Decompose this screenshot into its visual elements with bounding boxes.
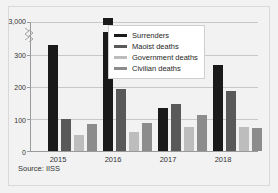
legend-swatch-surrenders xyxy=(114,34,127,37)
source-note: Source: IISS xyxy=(18,164,60,173)
bar-2015-civilian-deaths[interactable] xyxy=(87,124,97,151)
bar-2018-government-deaths[interactable] xyxy=(239,127,249,151)
ytick-label-300: 300 xyxy=(14,52,26,59)
bar-group-2015 xyxy=(48,22,100,151)
bar-2016-maoist-deaths[interactable] xyxy=(116,89,126,151)
bar-2017-government-deaths[interactable] xyxy=(184,127,194,151)
legend-label-maoist-deaths: Maoist deaths xyxy=(132,42,179,51)
bar-2015-surrenders[interactable] xyxy=(48,45,58,151)
ytick-mark-200 xyxy=(27,87,30,88)
ytick-label-200: 200 xyxy=(14,84,26,91)
legend-label-government-deaths: Government deaths xyxy=(132,53,198,62)
x-axis xyxy=(30,151,258,152)
legend-item-surrenders[interactable]: Surrenders xyxy=(114,30,198,41)
bar-2015-government-deaths[interactable] xyxy=(74,135,84,151)
xlabel-2017: 2017 xyxy=(148,156,188,164)
bar-2016-government-deaths[interactable] xyxy=(129,132,139,151)
xlabel-2015: 2015 xyxy=(38,156,78,164)
legend-item-government-deaths[interactable]: Government deaths xyxy=(114,52,198,63)
bar-2018-civilian-deaths[interactable] xyxy=(252,128,262,151)
ytick-label-100: 100 xyxy=(14,117,26,124)
ytick-mark-0 xyxy=(27,151,30,152)
bar-2017-civilian-deaths[interactable] xyxy=(197,115,207,151)
ytick-mark-100 xyxy=(27,119,30,120)
legend-label-civilian-deaths: Civilian deaths xyxy=(132,64,181,73)
chart-figure: 3,000 300 200 100 0 xyxy=(0,0,278,193)
bar-2015-maoist-deaths[interactable] xyxy=(61,119,71,151)
ytick-label-3000: 3,000 xyxy=(8,18,26,25)
bar-2018-maoist-deaths[interactable] xyxy=(226,91,236,151)
ytick-label-0: 0 xyxy=(22,149,26,156)
bar-2017-maoist-deaths[interactable] xyxy=(171,104,181,151)
xlabel-2018: 2018 xyxy=(203,156,243,164)
y-axis xyxy=(30,22,31,152)
legend-swatch-government-deaths xyxy=(114,56,127,59)
bar-2016-surrenders-offscale-cap xyxy=(103,18,113,25)
bar-2017-surrenders[interactable] xyxy=(158,108,168,151)
bar-2018-surrenders[interactable] xyxy=(213,65,223,151)
legend-swatch-civilian-deaths xyxy=(114,67,127,70)
chart-legend: Surrenders Maoist deaths Government deat… xyxy=(108,25,205,79)
legend-label-surrenders: Surrenders xyxy=(132,31,169,40)
legend-item-maoist-deaths[interactable]: Maoist deaths xyxy=(114,41,198,52)
legend-swatch-maoist-deaths xyxy=(114,45,127,48)
bar-group-2018 xyxy=(213,22,265,151)
ytick-mark-3000 xyxy=(27,22,30,23)
ytick-mark-300 xyxy=(27,55,30,56)
xlabel-2016: 2016 xyxy=(93,156,133,164)
legend-item-civilian-deaths[interactable]: Civilian deaths xyxy=(114,63,198,74)
bar-2016-civilian-deaths[interactable] xyxy=(142,123,152,151)
